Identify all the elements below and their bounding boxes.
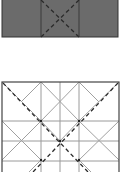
crease-node <box>59 140 61 142</box>
top-panel-fill <box>2 0 118 37</box>
crease-pattern-diagram <box>0 0 122 172</box>
top-panel <box>2 0 118 37</box>
fold-diagonal-left <box>3 83 88 172</box>
crease-node <box>40 120 42 122</box>
crease-node <box>78 159 80 161</box>
fold-diagonal-right <box>33 83 118 172</box>
crease-node <box>40 159 42 161</box>
crease-node <box>78 120 80 122</box>
bottom-panel <box>2 82 119 172</box>
